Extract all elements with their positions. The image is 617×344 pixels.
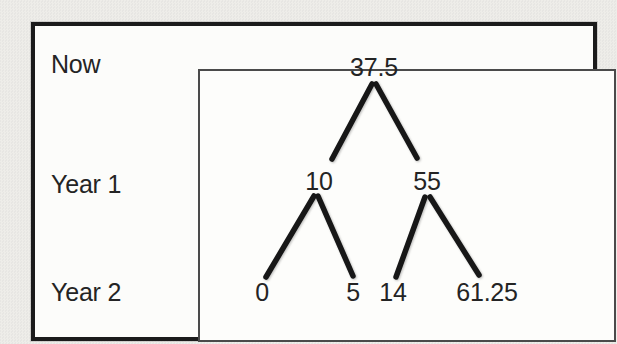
branch-now-to-year1-down (332, 84, 372, 159)
branch-now-to-year1-up (376, 84, 417, 158)
branch-year1-down-to-year2-du (318, 196, 353, 276)
tree-node-year1-up: 55 (413, 169, 440, 194)
tree-node-year2-ud: 14 (379, 280, 406, 305)
tree-node-year2-dd: 0 (255, 280, 269, 305)
branch-year1-up-to-year2-uu (430, 197, 479, 275)
tree-node-year1-down: 10 (305, 169, 332, 194)
branch-year1-down-to-year2-dd (266, 196, 314, 277)
tree-node-year2-du: 5 (346, 280, 360, 305)
tree-node-now: 37.5 (350, 55, 398, 80)
scanned-figure: Now Year 1 Year 2 37.51055051461.25 (0, 0, 617, 344)
branch-year1-up-to-year2-ud (396, 197, 425, 277)
tree-node-year2-uu: 61.25 (456, 280, 518, 305)
